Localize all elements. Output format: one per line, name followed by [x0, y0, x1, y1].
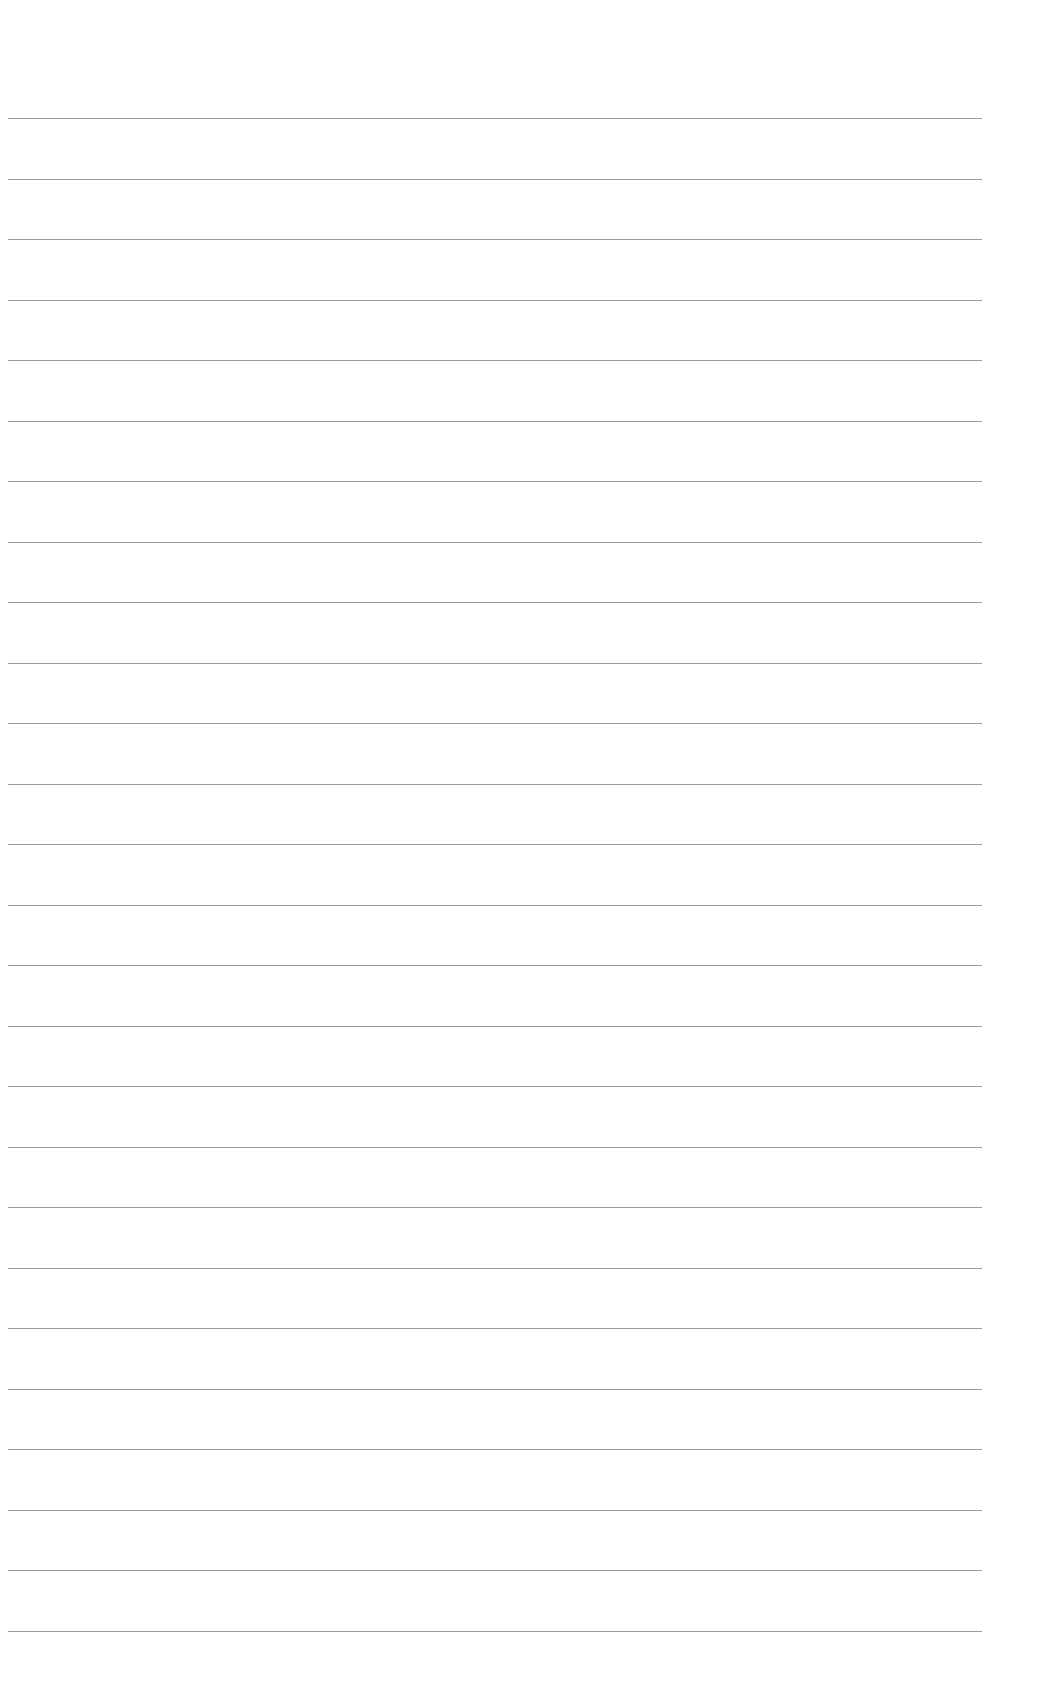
ruled-line	[8, 1328, 982, 1329]
ruled-line	[8, 481, 982, 482]
ruled-line	[8, 360, 982, 361]
ruled-line	[8, 118, 982, 119]
ruled-line	[8, 1631, 982, 1632]
ruled-line	[8, 1570, 982, 1571]
ruled-line	[8, 723, 982, 724]
ruled-line	[8, 1449, 982, 1450]
ruled-line	[8, 1510, 982, 1511]
ruled-line	[8, 1268, 982, 1269]
ruled-line	[8, 965, 982, 966]
ruled-line	[8, 1147, 982, 1148]
ruled-line	[8, 239, 982, 240]
ruled-line	[8, 1207, 982, 1208]
ruled-line	[8, 602, 982, 603]
ruled-line	[8, 1026, 982, 1027]
lined-paper-page	[0, 0, 1039, 1708]
ruled-line	[8, 905, 982, 906]
ruled-line	[8, 1389, 982, 1390]
ruled-line	[8, 844, 982, 845]
ruled-line	[8, 542, 982, 543]
ruled-line	[8, 300, 982, 301]
ruled-line	[8, 421, 982, 422]
ruled-line	[8, 784, 982, 785]
ruled-line	[8, 663, 982, 664]
ruled-line	[8, 1086, 982, 1087]
ruled-line	[8, 179, 982, 180]
